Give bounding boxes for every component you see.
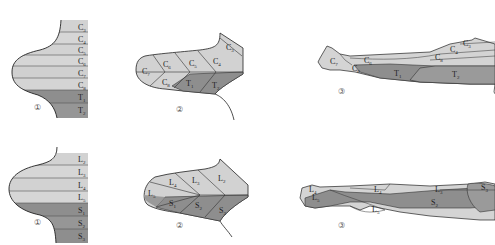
lower-limb-elongated-svg: L5 L4 L3 L2 S1 S2 S3 ②	[120, 125, 270, 245]
upper-limb-bud-diagram: C3 C4 C5 C6 C7 C8 T1 T2 ①	[0, 0, 120, 125]
lower-limb-adult-svg: L4 L5 L4 L3 L5 S2 S3 ③	[290, 150, 495, 245]
upper-limb-adult-diagram: C7 C6 C8 C4 C3 C8 T1 T2 ③	[290, 30, 495, 120]
panel-number: ③	[338, 221, 345, 230]
lower-limb-elongated-diagram: L5 L4 L3 L2 S1 S2 S3 ②	[120, 125, 270, 245]
lower-limb-adult-diagram: L4 L5 L4 L3 L5 S2 S3 ③	[290, 150, 495, 245]
panel-number: ①	[34, 218, 41, 227]
panel-number: ③	[338, 87, 345, 96]
upper-limb-elongated-diagram: C7 C6 C5 C4 C3 C8 T1 T2 ②	[120, 0, 270, 125]
panel-number: ②	[176, 221, 183, 230]
lower-limb-bud-diagram: L2 L3 L4 L5 S1 S2 S3 ①	[0, 125, 120, 245]
upper-limb-adult-svg: C7 C6 C8 C4 C3 C8 T1 T2 ③	[290, 30, 495, 120]
lower-limb-bud-svg: L2 L3 L4 L5 S1 S2 S3 ①	[0, 125, 120, 245]
upper-limb-bud-svg: C3 C4 C5 C6 C7 C8 T1 T2 ①	[0, 0, 120, 125]
panel-number: ②	[176, 105, 183, 114]
panel-number: ①	[34, 103, 41, 112]
upper-limb-elongated-svg: C7 C6 C5 C4 C3 C8 T1 T2 ②	[120, 0, 270, 125]
